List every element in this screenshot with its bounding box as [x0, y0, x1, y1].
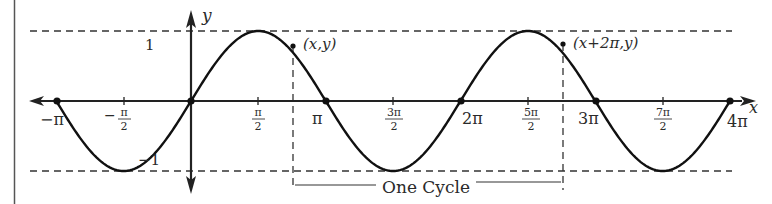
svg-text:π: π	[254, 106, 261, 119]
point-x-plus-2pi-y	[560, 41, 565, 46]
one-cycle-label: One Cycle	[382, 177, 470, 197]
point-x-y	[290, 43, 295, 48]
x-axis-label: x	[749, 98, 758, 117]
point-x-plus-2pi-y-label: (x+2π,y)	[573, 34, 639, 52]
y-axis-label: y	[201, 5, 212, 25]
svg-text:5π: 5π	[524, 106, 538, 119]
point-x-y-label: (x,y)	[303, 35, 337, 53]
svg-text:2: 2	[121, 120, 128, 133]
svg-text:2: 2	[391, 120, 398, 133]
x-tick-7pi-over-2: 7π 2	[654, 106, 672, 133]
svg-text:−: −	[104, 107, 116, 123]
svg-text:π: π	[120, 106, 127, 119]
x-tick-2pi: 2π	[462, 109, 483, 128]
x-tick-3pi: 3π	[578, 109, 599, 128]
sine-graph: y x 1 −1 −π π 2π 3π 4π − π 2 π 2 3π 2 5π…	[0, 0, 772, 204]
svg-text:2: 2	[528, 120, 535, 133]
x-tick-4pi: 4π	[727, 112, 748, 131]
x-tick-3pi-over-2: 3π 2	[385, 106, 403, 133]
y-tick-neg1: −1	[138, 151, 160, 169]
x-tick-neg-pi: −π	[40, 110, 64, 129]
svg-text:7π: 7π	[656, 106, 670, 119]
svg-text:3π: 3π	[387, 106, 401, 119]
one-cycle-bracket: One Cycle	[295, 177, 561, 197]
x-tick-pi: π	[312, 109, 323, 128]
svg-text:2: 2	[660, 120, 667, 133]
svg-text:2: 2	[255, 120, 262, 133]
x-tick-pi-over-2: π 2	[252, 106, 265, 133]
x-tick-neg-pi-over-2: − π 2	[104, 106, 131, 133]
y-tick-1: 1	[145, 36, 155, 54]
x-tick-5pi-over-2: 5π 2	[522, 106, 540, 133]
